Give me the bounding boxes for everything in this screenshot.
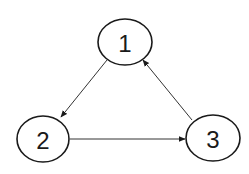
node-1: 1 — [98, 19, 152, 65]
graph-diagram: 1 2 3 — [0, 0, 249, 174]
node-1-label: 1 — [118, 30, 131, 57]
edge-1-to-2 — [61, 60, 107, 117]
node-3: 3 — [186, 115, 240, 161]
node-3-label: 3 — [206, 126, 219, 153]
edge-3-to-1 — [143, 60, 192, 120]
node-2: 2 — [17, 116, 69, 162]
node-2-label: 2 — [36, 127, 49, 154]
